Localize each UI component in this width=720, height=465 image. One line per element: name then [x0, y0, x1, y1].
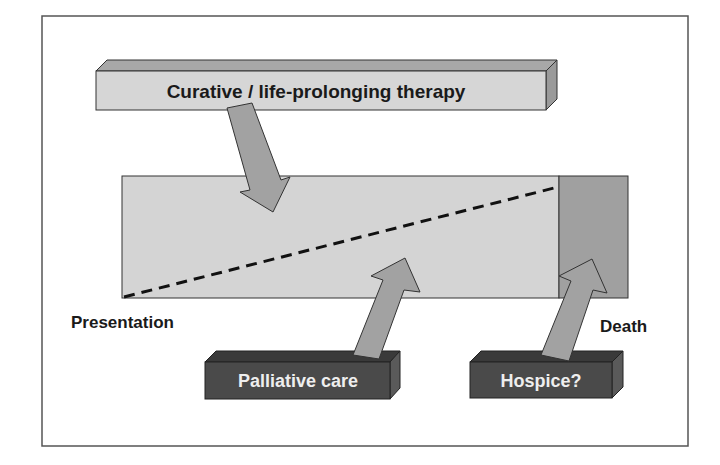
hospice-label: Hospice? [500, 371, 581, 391]
palliative-care-label: Palliative care [238, 371, 358, 391]
illness-timeline [122, 176, 628, 298]
curative-therapy-label: Curative / life-prolonging therapy [167, 81, 466, 102]
presentation-label: Presentation [71, 313, 174, 332]
hospice-box: Hospice? [470, 351, 623, 398]
timeline-main-region [122, 176, 559, 298]
curative-therapy-box: Curative / life-prolonging therapy [96, 60, 557, 110]
diagram-canvas: Curative / life-prolonging therapy Palli… [0, 0, 720, 465]
death-label: Death [600, 317, 647, 336]
curative-box-top-face [96, 60, 557, 71]
